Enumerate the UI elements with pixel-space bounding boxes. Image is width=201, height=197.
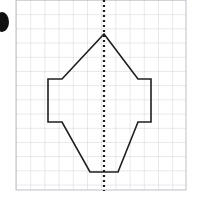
grid-cells [16,0,186,190]
figure-canvas [0,0,201,197]
grid-figure-svg [0,0,201,197]
grid-group [16,0,186,190]
